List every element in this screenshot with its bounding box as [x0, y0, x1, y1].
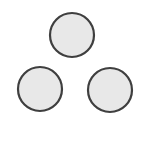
circle-bottom-right [88, 68, 132, 112]
circle-top [50, 13, 94, 57]
diagram-canvas [0, 0, 141, 149]
circle-bottom-left [18, 67, 62, 111]
